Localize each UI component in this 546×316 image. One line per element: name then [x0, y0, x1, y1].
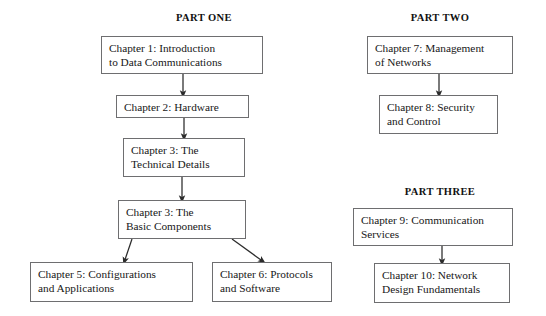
chapter-box-line: of Networks	[375, 55, 506, 69]
chapter-box-line: Design Fundamentals	[382, 282, 503, 296]
chapter-box-line: Services	[361, 227, 506, 241]
chapter-box-line: Basic Components	[126, 219, 239, 233]
chapter-box-line: Chapter 8: Security	[387, 100, 491, 114]
chapter-box-chapter-10[interactable]: Chapter 10: NetworkDesign Fundamentals	[374, 263, 510, 303]
chapter-box-chapter-3-basic[interactable]: Chapter 3: TheBasic Components	[118, 200, 246, 239]
connector-c3b-to-c5	[125, 239, 132, 261]
chapter-box-line: Chapter 10: Network	[382, 268, 503, 282]
chapter-box-line: Chapter 6: Protocols	[220, 267, 325, 281]
chapter-box-line: Chapter 2: Hardware	[124, 100, 242, 114]
chapter-box-chapter-2[interactable]: Chapter 2: Hardware	[116, 95, 249, 118]
chapter-box-line: Chapter 9: Communication	[361, 213, 506, 227]
chapter-box-line: and Applications	[38, 281, 186, 295]
chapter-box-chapter-6[interactable]: Chapter 6: Protocolsand Software	[212, 262, 332, 302]
chapter-box-chapter-1[interactable]: Chapter 1: Introductionto Data Communica…	[101, 36, 263, 74]
chapter-box-line: to Data Communications	[109, 55, 256, 69]
chapter-box-line: Technical Details	[131, 157, 238, 171]
connector-c3b-to-c6	[232, 239, 262, 261]
chapter-box-chapter-8[interactable]: Chapter 8: Securityand Control	[379, 95, 498, 134]
chapter-box-line: Chapter 3: The	[126, 205, 239, 219]
chapter-box-line: Chapter 5: Configurations	[38, 267, 186, 281]
chapter-box-line: Chapter 7: Management	[375, 41, 506, 55]
part-heading-part-two: PART TWO	[411, 12, 470, 23]
chapter-box-chapter-5[interactable]: Chapter 5: Configurationsand Application…	[30, 262, 193, 302]
part-heading-part-one: PART ONE	[176, 12, 232, 23]
chapter-box-chapter-3-technical[interactable]: Chapter 3: TheTechnical Details	[123, 138, 245, 177]
chapter-box-line: and Software	[220, 281, 325, 295]
chapter-box-line: Chapter 3: The	[131, 143, 238, 157]
chapter-box-line: and Control	[387, 114, 491, 128]
chapter-box-line: Chapter 1: Introduction	[109, 41, 256, 55]
chapter-box-chapter-7[interactable]: Chapter 7: Managementof Networks	[367, 36, 513, 74]
part-heading-part-three: PART THREE	[405, 186, 475, 197]
diagram-canvas: PART ONEPART TWOPART THREE Chapter 1: In…	[0, 0, 546, 316]
chapter-box-chapter-9[interactable]: Chapter 9: CommunicationServices	[353, 208, 513, 246]
